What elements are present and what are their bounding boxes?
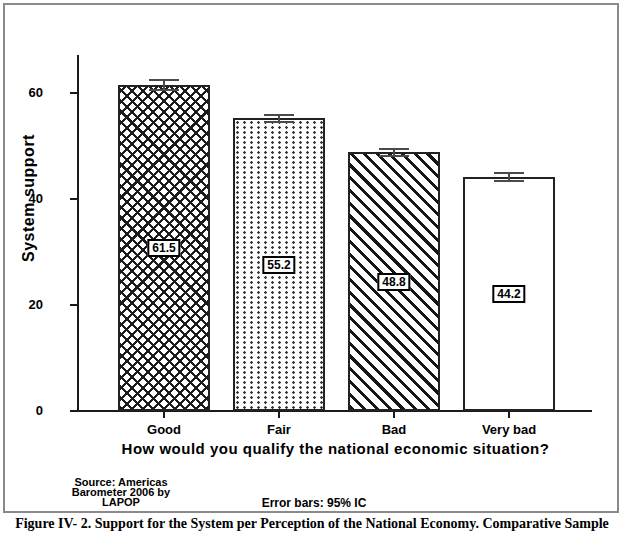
y-tick-mark bbox=[70, 410, 78, 412]
y-tick-label: 40 bbox=[5, 191, 43, 207]
category-label-good: Good bbox=[109, 422, 219, 437]
bar-value-label: 61.5 bbox=[147, 239, 180, 257]
bar-value-label: 44.2 bbox=[492, 285, 525, 303]
source-note: Source: Americas Barometer 2006 by LAPOP bbox=[45, 477, 197, 507]
error-bar-bottom-cap bbox=[264, 121, 294, 123]
x-axis-title: How would you qualify the national econo… bbox=[79, 440, 592, 457]
error-bar-bottom-cap bbox=[149, 89, 179, 91]
error-bar bbox=[379, 148, 409, 158]
category-label-bad: Bad bbox=[339, 422, 449, 437]
y-tick-label: 20 bbox=[5, 297, 43, 313]
chart-frame: System support 0204060 61.5Good55.2Fair4… bbox=[3, 3, 619, 513]
x-tick-mark bbox=[163, 412, 165, 418]
error-bar bbox=[149, 79, 179, 91]
x-tick-mark bbox=[278, 412, 280, 418]
y-tick-label: 60 bbox=[5, 85, 43, 101]
category-label-very-bad: Very bad bbox=[454, 422, 564, 437]
y-tick-mark bbox=[70, 304, 78, 306]
y-axis-line bbox=[77, 55, 79, 412]
error-bar bbox=[494, 172, 524, 182]
error-bar-bottom-cap bbox=[494, 180, 524, 182]
error-bar-bottom-cap bbox=[379, 155, 409, 157]
y-tick-label: 0 bbox=[5, 403, 43, 419]
figure-caption: Figure IV- 2. Support for the System per… bbox=[0, 516, 624, 532]
source-note-line3: LAPOP bbox=[45, 497, 197, 507]
bar-value-label: 48.8 bbox=[377, 273, 410, 291]
y-tick-mark bbox=[70, 198, 78, 200]
bar-value-label: 55.2 bbox=[262, 256, 295, 274]
y-tick-mark bbox=[70, 92, 78, 94]
figure-container: System support 0204060 61.5Good55.2Fair4… bbox=[0, 0, 624, 536]
category-label-fair: Fair bbox=[224, 422, 334, 437]
x-tick-mark bbox=[393, 412, 395, 418]
error-bars-note: Error bars: 95% IC bbox=[234, 496, 394, 510]
x-tick-mark bbox=[508, 412, 510, 418]
error-bar bbox=[264, 114, 294, 124]
